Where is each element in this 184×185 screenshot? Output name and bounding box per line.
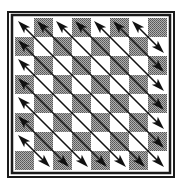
checkerboard-arrow-illusion — [0, 0, 184, 185]
board-graphic — [0, 0, 184, 185]
dark-square — [148, 18, 167, 37]
dark-square — [15, 151, 34, 170]
